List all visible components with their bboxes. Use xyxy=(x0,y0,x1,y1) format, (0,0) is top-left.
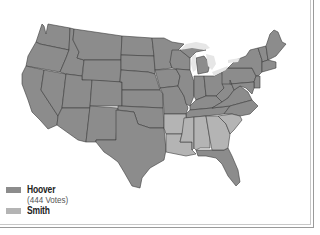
map-legend: Hoover (444 Votes) Smith xyxy=(6,184,76,216)
state-pa xyxy=(222,68,256,84)
state-me xyxy=(266,30,286,60)
state-nm xyxy=(86,106,118,142)
legend-sub-hoover-votes: (444 Votes) xyxy=(27,195,68,205)
lake-michigan xyxy=(191,54,196,72)
state-co xyxy=(90,80,122,106)
legend-label-hoover: Hoover xyxy=(27,185,55,195)
state-ma-ct-ri xyxy=(262,60,276,72)
frame-border-right-outer xyxy=(313,0,314,228)
state-mt xyxy=(73,29,122,60)
map-frame: Hoover (444 Votes) Smith xyxy=(0,0,320,235)
state-ks xyxy=(122,90,163,108)
state-nd xyxy=(121,36,154,56)
legend-item-smith: Smith xyxy=(6,205,76,216)
state-wy xyxy=(82,60,121,82)
smith-swatch-icon xyxy=(6,208,21,214)
state-az xyxy=(57,108,90,142)
frame-border-bottom-outer xyxy=(0,227,314,228)
legend-label-smith: Smith xyxy=(27,206,50,216)
hoover-swatch-icon xyxy=(6,187,21,193)
state-fl xyxy=(196,148,240,186)
frame-border-right-inner xyxy=(310,0,311,225)
frame-border-bottom-inner xyxy=(0,224,311,225)
